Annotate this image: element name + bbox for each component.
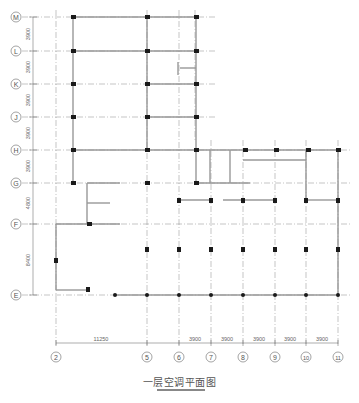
row-dim-5: 3900 <box>25 160 31 172</box>
axis-label-9: 9 <box>273 354 277 361</box>
axis-label-10: 10 <box>303 355 309 361</box>
walls <box>56 17 338 295</box>
axis-label-M: M <box>13 14 19 21</box>
axis-label-J: J <box>14 114 18 121</box>
axis-label-E: E <box>14 292 19 299</box>
horizontal-axis-lines <box>22 17 350 295</box>
row-dim-6: 4800 <box>25 197 31 209</box>
axis-label-2: 2 <box>54 354 58 361</box>
axis-label-7: 7 <box>209 354 213 361</box>
col-dim-4: 3900 <box>253 336 265 342</box>
col-dim-1: 11250 <box>94 336 109 342</box>
structural-columns <box>54 15 341 297</box>
axis-label-5: 5 <box>145 354 149 361</box>
row-dim-1: 3900 <box>25 28 31 40</box>
col-dim-3: 3900 <box>221 336 233 342</box>
axis-label-G: G <box>13 180 18 187</box>
axis-label-11: 11 <box>335 355 341 361</box>
row-dim-4: 3900 <box>25 127 31 139</box>
col-dim-5: 3900 <box>284 336 296 342</box>
row-dim-7: 8400 <box>25 254 31 266</box>
row-dim-3: 3900 <box>25 94 31 106</box>
column-axis-labels: 2 5 6 7 8 9 10 11 <box>54 354 341 361</box>
col-dim-2: 3900 <box>189 336 201 342</box>
axis-label-K: K <box>14 81 19 88</box>
floor-plan-drawing: M L K J H G F E 3900 3900 3900 3900 3900… <box>0 0 359 403</box>
drawing-title: 一层空调平面图 <box>0 374 359 389</box>
row-axis-bubbles <box>11 12 21 300</box>
title-underline <box>157 389 205 391</box>
col-dim-6: 3900 <box>316 336 328 342</box>
axis-label-6: 6 <box>177 354 181 361</box>
row-dimension-labels: 3900 3900 3900 3900 3900 4800 8400 <box>25 28 31 266</box>
row-dim-2: 3900 <box>25 61 31 73</box>
axis-label-8: 8 <box>241 354 245 361</box>
axis-label-F: F <box>14 221 18 228</box>
column-axis-bubbles <box>51 352 343 362</box>
axis-label-H: H <box>13 147 18 154</box>
axis-label-L: L <box>14 48 18 55</box>
left-dimension-chain <box>29 17 37 295</box>
